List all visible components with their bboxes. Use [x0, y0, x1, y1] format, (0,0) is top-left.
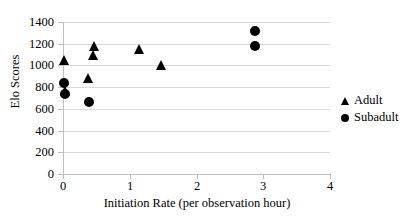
- legend-item-subadult[interactable]: Subadult: [338, 109, 412, 126]
- circle-marker-icon: [338, 114, 351, 122]
- y-tick-label-wrap: 800: [20, 81, 54, 94]
- y-tick-label-wrap: 1200: [20, 38, 54, 51]
- y-tick-label-wrap: 400: [20, 125, 54, 138]
- y-tick-label-wrap: 1000: [20, 59, 54, 72]
- y-axis-title: Elo Scores: [9, 36, 22, 128]
- x-tick-label: 3: [253, 180, 273, 193]
- y-tick-label: 200: [20, 146, 54, 159]
- y-tick-label: 600: [20, 103, 54, 116]
- y-tick-label: 1000: [20, 59, 54, 72]
- x-tick-label: 4: [320, 180, 340, 193]
- triangle-marker-icon: [338, 97, 351, 105]
- legend-label: Subadult: [351, 111, 398, 124]
- chart-legend: AdultSubadult: [338, 92, 412, 126]
- legend-label: Adult: [351, 94, 382, 107]
- y-tick-label-wrap: 1400: [20, 16, 54, 29]
- data-point-subadult: [250, 26, 260, 36]
- data-point-adult: [59, 55, 69, 65]
- y-tick-label: 1400: [20, 16, 54, 29]
- x-tick-label: 0: [53, 180, 73, 193]
- y-tick-label: 400: [20, 125, 54, 138]
- x-tick-label: 1: [120, 180, 140, 193]
- plot-area: [63, 22, 330, 174]
- data-point-adult: [134, 44, 144, 54]
- data-point-adult: [156, 60, 166, 70]
- legend-item-adult[interactable]: Adult: [338, 92, 412, 109]
- y-tick-label: 0: [20, 168, 54, 181]
- y-tick-label-wrap: 0: [20, 168, 54, 181]
- data-point-adult: [83, 73, 93, 83]
- y-tick-label: 1200: [20, 38, 54, 51]
- x-tick-label: 2: [187, 180, 207, 193]
- data-point-adult: [88, 50, 98, 60]
- scatter-chart: 0200400600800100012001400 01234 Initiati…: [0, 0, 414, 217]
- y-tick-label-wrap: 600: [20, 103, 54, 116]
- y-tick-label: 800: [20, 81, 54, 94]
- data-point-subadult: [60, 89, 70, 99]
- x-axis-title: Initiation Rate (per observation hour): [63, 196, 331, 210]
- y-tick-label-wrap: 200: [20, 146, 54, 159]
